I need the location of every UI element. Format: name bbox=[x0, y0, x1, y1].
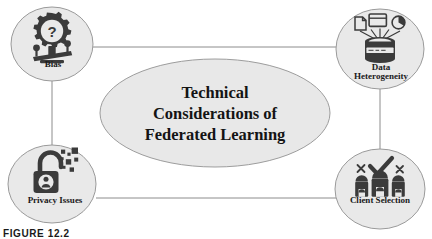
svg-text:?: ? bbox=[47, 23, 56, 40]
node-bias[interactable]: ? bbox=[11, 7, 93, 81]
center-ellipse bbox=[100, 59, 330, 167]
figure-container: ? bbox=[0, 0, 432, 239]
node-privacy-issues[interactable] bbox=[8, 145, 96, 223]
node-client-selection[interactable] bbox=[335, 149, 425, 229]
figure-caption: FIGURE 12.2 bbox=[3, 228, 70, 239]
diagram-canvas: ? bbox=[0, 0, 432, 239]
node-data-heterogeneity[interactable] bbox=[336, 9, 424, 89]
